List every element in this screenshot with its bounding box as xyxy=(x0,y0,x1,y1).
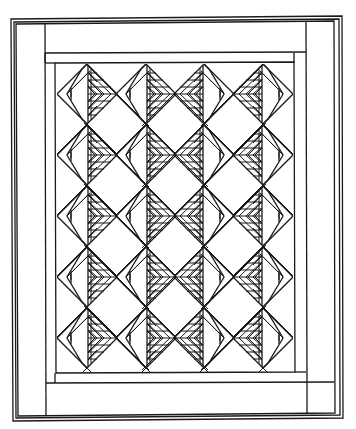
bottom-border-strip-edge xyxy=(46,382,334,383)
top-border-strip-edge xyxy=(45,52,306,53)
quilt-diagram xyxy=(0,0,356,429)
right-border-strip-edge xyxy=(306,22,307,383)
frame-outline-3 xyxy=(16,21,335,416)
left-border-strip-edge xyxy=(45,23,46,416)
quilt-blocks xyxy=(25,62,325,398)
